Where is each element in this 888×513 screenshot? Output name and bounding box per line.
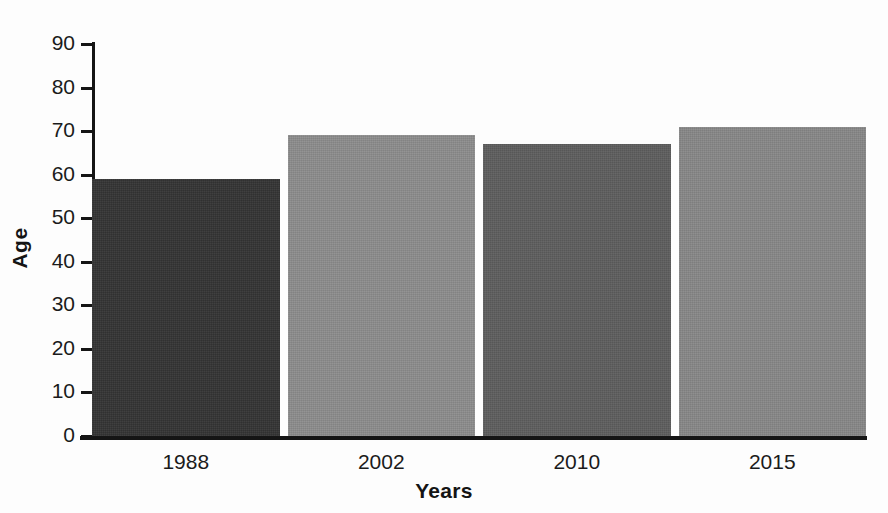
y-tick-mark xyxy=(81,391,92,394)
y-tick-mark xyxy=(81,348,92,351)
bar-1988 xyxy=(92,179,280,436)
y-tick-label: 80 xyxy=(15,74,75,100)
bar-2015 xyxy=(679,127,867,436)
y-tick-mark xyxy=(81,174,92,177)
y-tick-mark xyxy=(81,130,92,133)
y-tick-label: 70 xyxy=(15,117,75,143)
y-tick-label: 50 xyxy=(15,204,75,230)
y-tick-label: 90 xyxy=(15,30,75,56)
bar-2002 xyxy=(288,135,476,436)
y-tick-label: 30 xyxy=(15,291,75,317)
y-tick-label: 20 xyxy=(15,335,75,361)
y-tick-mark xyxy=(81,304,92,307)
y-tick-label: 40 xyxy=(15,248,75,274)
plot-area xyxy=(92,44,866,436)
y-tick-mark xyxy=(81,43,92,46)
y-tick-mark xyxy=(81,435,92,438)
x-tick-label-2002: 2002 xyxy=(288,448,476,476)
y-tick-label: 0 xyxy=(15,422,75,448)
y-tick-label: 10 xyxy=(15,378,75,404)
y-tick-mark xyxy=(81,261,92,264)
y-tick-mark xyxy=(81,217,92,220)
y-tick-label: 60 xyxy=(15,161,75,187)
bar-chart-figure: Age 9080706050403020100 1988200220102015… xyxy=(0,0,888,513)
x-tick-label-2015: 2015 xyxy=(679,448,867,476)
x-tick-label-1988: 1988 xyxy=(92,448,280,476)
x-axis-title: Years xyxy=(0,479,888,503)
x-axis-line xyxy=(80,436,867,440)
x-tick-label-2010: 2010 xyxy=(483,448,671,476)
bar-2010 xyxy=(483,144,671,436)
y-tick-mark xyxy=(81,87,92,90)
